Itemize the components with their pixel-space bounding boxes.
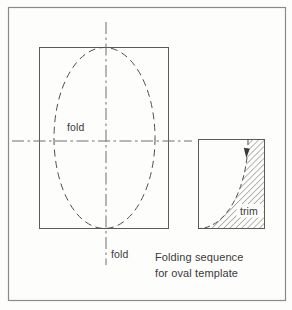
oval-outline [54,48,155,229]
template-paper-rectangle [40,48,169,229]
fold-label-vertical: fold [111,248,128,260]
figure-page: trim fold fold Folding sequence for oval… [0,0,292,310]
figure-caption-line2: for oval template [155,267,238,279]
outer-border [9,8,286,301]
figure-caption-line1: Folding sequence [155,251,243,263]
trim-label: trim [240,205,258,217]
folding-sequence-diagram: trim fold fold Folding sequence for oval… [0,0,292,310]
fold-label-horizontal: fold [67,121,84,133]
